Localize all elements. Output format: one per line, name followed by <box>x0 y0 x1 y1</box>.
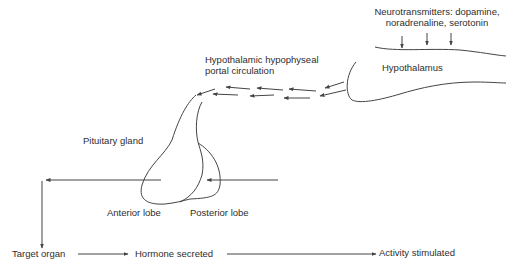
anterior-lobe-label: Anterior lobe <box>107 207 161 218</box>
target-organ-label: Target organ <box>12 248 65 259</box>
portal-circulation-label: Hypothalamic hypophyseal portal circulat… <box>205 54 319 76</box>
hypothalamus-shape <box>347 47 506 102</box>
neurotransmitter-arrows <box>402 33 451 48</box>
activity-stimulated-label: Activity stimulated <box>379 247 455 258</box>
neurotransmitters-label: Neurotransmitters: dopamine, noradrenali… <box>357 6 517 28</box>
diagram-lines <box>0 0 518 266</box>
hypothalamic-pituitary-diagram: Neurotransmitters: dopamine, noradrenali… <box>0 0 518 266</box>
posterior-lobe-label: Posterior lobe <box>190 207 249 218</box>
neurotransmitters-line-2: noradrenaline, serotonin <box>357 17 517 28</box>
portal-circulation-arrows <box>197 82 346 98</box>
pituitary-gland-label: Pituitary gland <box>83 135 143 146</box>
neurotransmitters-line-1: Neurotransmitters: dopamine, <box>357 6 517 17</box>
pituitary-gland-shape <box>141 95 220 204</box>
portal-line-2: portal circulation <box>205 65 319 76</box>
hormone-secreted-label: Hormone secreted <box>135 248 213 259</box>
portal-line-1: Hypothalamic hypophyseal <box>205 54 319 65</box>
hypothalamus-label: Hypothalamus <box>382 62 443 73</box>
